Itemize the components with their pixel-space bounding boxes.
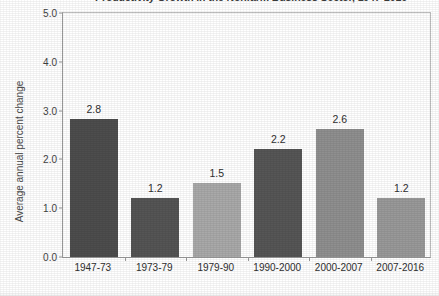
y-tick-mark xyxy=(59,208,63,209)
x-axis-label: 1973-79 xyxy=(136,262,173,273)
x-axis-label: 2000-2007 xyxy=(315,262,363,273)
x-tick-mark xyxy=(248,257,249,261)
x-axis-label: 2007-2016 xyxy=(376,262,424,273)
bar-value-label: 2.6 xyxy=(332,113,347,125)
x-tick-mark xyxy=(186,257,187,261)
chart-title: Productivity Growth in the Nonfarm Busin… xyxy=(66,0,436,3)
y-tick-label: 1.0 xyxy=(43,203,57,214)
x-tick-mark xyxy=(371,257,372,261)
x-axis-label: 1979-90 xyxy=(197,262,234,273)
bar: 2.8 xyxy=(70,119,118,257)
y-tick-mark xyxy=(59,13,63,14)
bar-value-label: 2.8 xyxy=(86,103,101,115)
x-axis-label: 1990-2000 xyxy=(253,262,301,273)
bar-value-label: 1.5 xyxy=(209,167,224,179)
y-tick-mark xyxy=(59,110,63,111)
bar-value-label: 1.2 xyxy=(394,182,409,194)
x-tick-mark xyxy=(309,257,310,261)
y-tick-label: 4.0 xyxy=(43,56,57,67)
bar: 2.2 xyxy=(254,149,302,257)
plot-area: 5.04.03.02.01.00.0 2.81.21.52.22.61.2 xyxy=(62,12,431,258)
scan-edge-shadow xyxy=(0,292,439,296)
y-tick-label: 0.0 xyxy=(43,252,57,263)
x-axis-label: 1947-73 xyxy=(74,262,111,273)
y-tick-mark xyxy=(59,61,63,62)
bar: 1.2 xyxy=(131,198,179,257)
y-tick-mark xyxy=(59,159,63,160)
bar: 1.2 xyxy=(377,198,425,257)
x-tick-mark xyxy=(125,257,126,261)
y-axis-title: Average annual percent change xyxy=(14,37,25,267)
bar-chart: Productivity Growth in the Nonfarm Busin… xyxy=(0,0,439,296)
y-tick-label: 5.0 xyxy=(43,8,57,19)
y-tick-label: 3.0 xyxy=(43,105,57,116)
bar: 1.5 xyxy=(193,183,241,257)
bar-value-label: 2.2 xyxy=(271,133,286,145)
bar: 2.6 xyxy=(316,129,364,257)
y-tick-label: 2.0 xyxy=(43,154,57,165)
y-tick-mark xyxy=(59,257,63,258)
bar-value-label: 1.2 xyxy=(148,182,163,194)
